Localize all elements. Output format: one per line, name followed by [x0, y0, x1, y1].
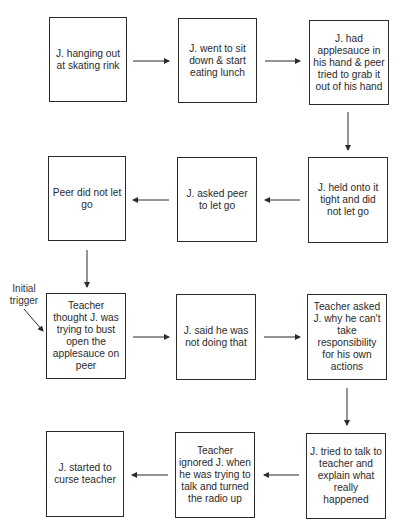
- node-text: J. started to curse teacher: [50, 462, 120, 486]
- flow-node-6: Peer did not let go: [48, 156, 126, 241]
- flow-node-8: J. said he was not doing that: [176, 294, 256, 380]
- flow-node-12: J. started to curse teacher: [46, 431, 124, 517]
- flow-node-4: J. held onto it tight and did not let go: [308, 157, 388, 243]
- node-text: Teacher ignored J. when he was trying to…: [179, 445, 251, 505]
- initial-trigger-arrow: [24, 309, 43, 331]
- flow-node-5: J. asked peer to let go: [177, 157, 257, 242]
- node-text: J. said he was not doing that: [180, 325, 252, 349]
- flow-node-11: Teacher ignored J. when he was trying to…: [175, 432, 255, 518]
- node-text: J. hanging out at skating rink: [53, 48, 123, 72]
- flow-node-9: Teacher asked J. why he can't take respo…: [307, 294, 387, 380]
- flow-node-7: Teacher thought J. was trying to bust op…: [46, 293, 126, 379]
- node-text: Teacher thought J. was trying to bust op…: [50, 300, 122, 372]
- flow-node-3: J. had applesauce in his hand & peer tri…: [309, 20, 389, 105]
- node-text: J. asked peer to let go: [181, 188, 253, 212]
- flow-node-2: J. went to sit down & start eating lunch: [178, 18, 257, 103]
- node-text: J. had applesauce in his hand & peer tri…: [313, 33, 385, 93]
- flow-node-1: J. hanging out at skating rink: [49, 17, 127, 102]
- node-text: J. went to sit down & start eating lunch: [182, 43, 253, 79]
- flow-node-10: J. tried to talk to teacher and explain …: [306, 433, 386, 519]
- node-text: Peer did not let go: [52, 187, 122, 211]
- node-text: J. held onto it tight and did not let go: [312, 182, 384, 218]
- node-text: Teacher asked J. why he can't take respo…: [311, 301, 383, 373]
- node-text: J. tried to talk to teacher and explain …: [310, 446, 382, 506]
- initial-trigger-label: Initial trigger: [4, 283, 44, 307]
